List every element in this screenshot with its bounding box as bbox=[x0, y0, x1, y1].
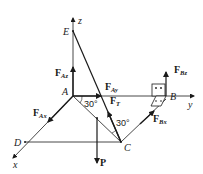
point-E bbox=[72, 30, 74, 32]
point-D bbox=[24, 141, 26, 143]
label-C: C bbox=[124, 142, 131, 153]
force-FBx-arrow bbox=[140, 111, 154, 124]
label-y: y bbox=[187, 99, 193, 110]
force-FAx-arrow bbox=[48, 96, 73, 122]
label-E: E bbox=[62, 26, 69, 37]
label-B: B bbox=[170, 91, 176, 102]
statics-diagram: z E A B C D y x FAz FAy FAx FT FBz FBx P… bbox=[0, 0, 203, 174]
point-C bbox=[120, 141, 122, 143]
label-FAy: FAy bbox=[105, 81, 118, 93]
angle-label-A: 30° bbox=[84, 99, 98, 109]
label-A: A bbox=[61, 86, 69, 97]
angle-arc-C bbox=[112, 130, 116, 133]
label-z: z bbox=[77, 15, 82, 26]
label-FAx: FAx bbox=[33, 107, 47, 119]
label-D: D bbox=[13, 137, 22, 148]
label-x: x bbox=[12, 159, 18, 170]
angle-label-C: 30° bbox=[116, 118, 130, 128]
angle-arc-A bbox=[80, 96, 82, 103]
label-FAz: FAz bbox=[55, 67, 68, 79]
label-FBx: FBx bbox=[153, 113, 167, 125]
label-FBz: FBz bbox=[174, 64, 187, 76]
hinge-B-icon bbox=[151, 84, 166, 106]
label-FT: FT bbox=[110, 95, 121, 107]
label-P: P bbox=[100, 157, 106, 168]
point-P-origin bbox=[96, 117, 98, 119]
